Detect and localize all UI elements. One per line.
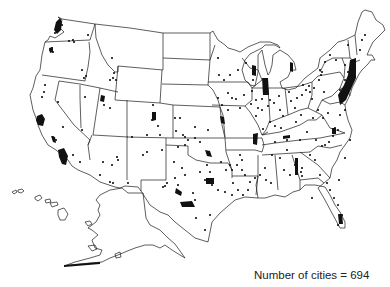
city-point xyxy=(286,139,288,141)
city-point xyxy=(220,161,222,163)
city-point xyxy=(199,171,201,173)
city-point xyxy=(72,39,74,41)
city-point xyxy=(113,72,115,74)
city-point xyxy=(152,104,154,106)
cluster-dfw xyxy=(206,178,214,184)
city-point xyxy=(324,144,326,146)
city-point xyxy=(306,131,308,133)
city-point xyxy=(231,194,233,196)
city-point xyxy=(204,229,206,231)
city-point xyxy=(241,169,243,171)
city-point xyxy=(335,59,337,61)
cluster-nashville xyxy=(283,135,290,139)
city-count-label: Number of cities = 694 xyxy=(254,269,369,281)
city-point xyxy=(102,161,104,163)
city-point xyxy=(255,99,257,101)
city-point xyxy=(227,109,229,111)
cluster-portland xyxy=(49,47,53,53)
city-point xyxy=(87,34,89,36)
cluster-seattle xyxy=(54,18,62,34)
cluster-austin xyxy=(175,188,182,196)
city-point xyxy=(44,84,46,86)
city-point xyxy=(236,164,238,166)
city-point xyxy=(289,174,291,176)
city-point xyxy=(323,91,325,93)
city-point xyxy=(112,182,114,184)
city-point xyxy=(283,169,285,171)
city-point xyxy=(271,154,273,156)
city-point xyxy=(243,94,245,96)
city-point xyxy=(161,149,163,151)
city-point xyxy=(317,109,319,111)
city-point xyxy=(313,87,315,89)
city-point xyxy=(142,154,144,156)
city-point xyxy=(117,159,119,161)
city-point xyxy=(320,74,322,76)
city-point xyxy=(164,185,166,187)
city-point xyxy=(344,157,346,159)
city-point xyxy=(195,217,197,219)
city-point xyxy=(204,179,206,181)
city-point xyxy=(255,115,257,117)
cluster-detroit xyxy=(290,62,293,72)
city-point xyxy=(79,161,81,163)
city-point xyxy=(249,181,251,183)
city-point xyxy=(241,159,243,161)
city-point xyxy=(43,91,45,93)
city-point xyxy=(239,154,241,156)
city-point xyxy=(209,171,211,173)
city-point xyxy=(309,154,311,156)
city-point xyxy=(294,107,296,109)
city-point xyxy=(280,127,282,129)
cluster-denver xyxy=(152,112,156,121)
city-point xyxy=(173,161,175,163)
city-point xyxy=(194,126,196,128)
city-point xyxy=(364,34,366,36)
city-point xyxy=(85,75,87,77)
city-point xyxy=(295,121,297,123)
city-point xyxy=(259,174,261,176)
cluster-sd xyxy=(51,136,56,143)
cluster-houston xyxy=(180,201,195,207)
city-point xyxy=(254,177,256,179)
city-point xyxy=(301,94,303,96)
city-point xyxy=(231,97,233,99)
city-point xyxy=(359,49,361,51)
city-point xyxy=(174,117,176,119)
city-point xyxy=(217,97,219,99)
city-point xyxy=(166,182,168,184)
city-point xyxy=(175,130,177,132)
city-point xyxy=(269,99,271,101)
city-point xyxy=(273,102,275,104)
cluster-kc xyxy=(220,116,225,124)
city-point xyxy=(217,57,219,59)
cluster-salt-lake xyxy=(100,95,105,102)
cluster-charlotte xyxy=(332,128,336,134)
city-point xyxy=(324,61,326,63)
city-point xyxy=(333,197,335,199)
city-point xyxy=(223,79,225,81)
metro-clusters xyxy=(36,18,356,267)
us-city-map xyxy=(0,0,390,287)
city-point xyxy=(73,41,75,43)
city-point xyxy=(217,189,219,191)
city-point xyxy=(296,97,298,99)
city-point xyxy=(62,126,64,128)
city-point xyxy=(159,134,161,136)
city-point xyxy=(286,149,288,151)
city-point xyxy=(322,117,324,119)
city-point xyxy=(81,129,83,131)
city-point xyxy=(194,137,196,139)
city-point xyxy=(72,154,74,156)
cluster-sf-bay xyxy=(36,114,45,126)
city-point xyxy=(116,156,118,158)
hawaii-inset xyxy=(12,189,68,220)
city-point xyxy=(329,189,331,191)
city-point xyxy=(278,95,280,97)
city-point xyxy=(232,182,234,184)
city-point xyxy=(206,164,208,166)
city-point xyxy=(265,179,267,181)
city-point xyxy=(68,40,70,42)
city-point xyxy=(321,71,323,73)
city-point xyxy=(81,69,83,71)
